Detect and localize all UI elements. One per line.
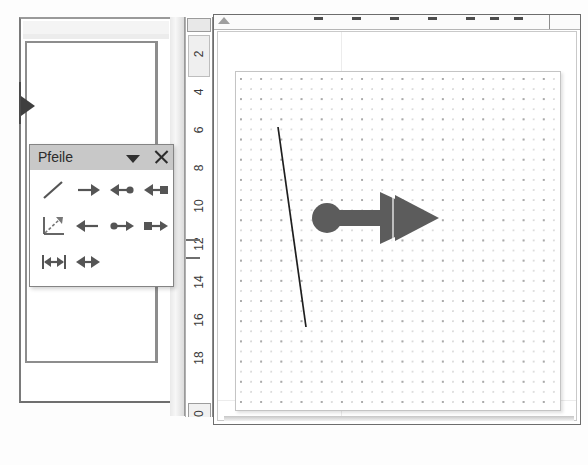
ruler-corner-box[interactable]	[187, 18, 211, 32]
axis-arrow-icon	[41, 215, 67, 237]
vruler-tick-14: 14	[186, 267, 212, 297]
arrow-left-circle-icon	[109, 179, 135, 201]
hruler-tick	[314, 17, 323, 20]
ruler-margin-handle[interactable]	[185, 239, 200, 259]
vruler-tick-18: 18	[186, 343, 212, 373]
page-sheet[interactable]	[235, 71, 561, 411]
block-arrow[interactable]	[312, 192, 439, 244]
arrow-head-front	[395, 195, 439, 241]
page-area[interactable]	[217, 31, 577, 421]
vruler-tick-8: 8	[186, 153, 212, 183]
tool-arrow-double-circle[interactable]	[105, 211, 138, 241]
drawing-canvas[interactable]	[236, 72, 560, 410]
arrow-double-circle-icon	[109, 215, 135, 237]
play-triangle-icon[interactable]	[21, 96, 35, 116]
vruler-tick-10: 10	[186, 191, 212, 221]
chevron-down-icon[interactable]	[126, 155, 140, 163]
close-icon[interactable]	[152, 148, 170, 166]
vruler-tick-4: 4	[186, 77, 212, 107]
pfeile-toolbar-titlebar[interactable]: Pfeile	[30, 145, 173, 171]
vruler-tick-6: 6	[186, 115, 212, 145]
hruler-tick	[490, 17, 499, 20]
horizontal-ruler[interactable]	[214, 15, 580, 30]
arrow-square-right-icon	[143, 215, 169, 237]
tool-dimension-axis-arrow[interactable]	[37, 211, 70, 241]
line-icon	[41, 179, 67, 201]
tool-arrow-left-circle[interactable]	[105, 175, 138, 205]
page-bottom-shadow	[224, 416, 574, 421]
background-window-toolbar-secondary	[23, 34, 169, 39]
vruler-tick-20: 20	[186, 402, 212, 417]
hruler-end-box	[549, 15, 580, 29]
arrow-shaft	[336, 210, 384, 226]
vruler-tick-16: 16	[186, 305, 212, 335]
tool-arrow-right[interactable]	[71, 175, 104, 205]
dimension-line-icon	[41, 251, 67, 273]
arrow-double-icon	[75, 251, 101, 273]
indent-marker[interactable]	[218, 17, 230, 24]
tool-arrow-double[interactable]	[71, 247, 104, 277]
diagonal-line[interactable]	[278, 127, 306, 327]
tool-arrow-left-square[interactable]	[139, 175, 172, 205]
tool-line[interactable]	[37, 175, 70, 205]
vertical-ruler[interactable]: 2 4 6 8 10 12 14 16 18 20	[185, 17, 214, 417]
tool-arrow-square-right[interactable]	[139, 211, 172, 241]
arrow-left-icon	[75, 215, 101, 237]
hruler-tick	[352, 17, 361, 20]
pfeile-toolbar[interactable]: Pfeile	[29, 144, 174, 287]
hruler-tick	[514, 17, 523, 20]
hruler-tick	[390, 17, 399, 20]
hruler-tick	[428, 17, 437, 20]
vruler-tick-2: 2	[186, 39, 212, 69]
tool-arrow-left[interactable]	[71, 211, 104, 241]
document-window[interactable]	[213, 14, 581, 425]
hruler-tick	[466, 17, 475, 20]
pfeile-toolbar-title: Pfeile	[38, 149, 73, 165]
arrow-left-square-icon	[143, 179, 169, 201]
screenshot-root: 2 4 6 8 10 12 14 16 18 20	[0, 0, 588, 465]
arrow-right-icon	[75, 179, 101, 201]
tool-dimension-line[interactable]	[37, 247, 70, 277]
pfeile-toolbar-body	[30, 170, 173, 285]
